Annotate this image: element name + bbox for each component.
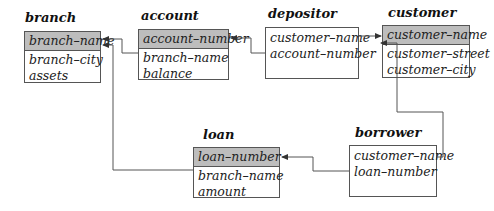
fk-depositor-account: [231, 38, 265, 53]
fk-borrower-customer: [381, 43, 443, 157]
foreign-key-arrows: [0, 0, 494, 211]
fk-loan-branch: [103, 45, 193, 170]
fk-account-branch: [103, 39, 138, 53]
fk-borrower-loan: [282, 157, 349, 171]
